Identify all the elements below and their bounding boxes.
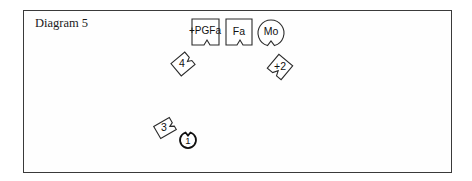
piece-four-label: 4 <box>179 57 185 69</box>
piece-plus-two-label: +2 <box>274 60 286 72</box>
piece-fa: Fa <box>226 19 252 45</box>
piece-fa-label: Fa <box>233 25 245 37</box>
piece-pgfa-label: +PGFa <box>189 25 221 36</box>
piece-one: 1 <box>180 133 196 149</box>
piece-plus-two: +2 <box>267 54 292 79</box>
diagram-canvas: +PGFa Fa Mo 4 +2 3 1 <box>0 0 472 181</box>
piece-three-label: 3 <box>161 121 167 133</box>
piece-mo: Mo <box>258 20 284 46</box>
piece-mo-label: Mo <box>264 25 279 37</box>
piece-pgfa: +PGFa <box>189 19 221 45</box>
piece-three: 3 <box>153 117 176 139</box>
piece-one-label: 1 <box>185 135 190 146</box>
piece-four: 4 <box>171 52 195 76</box>
